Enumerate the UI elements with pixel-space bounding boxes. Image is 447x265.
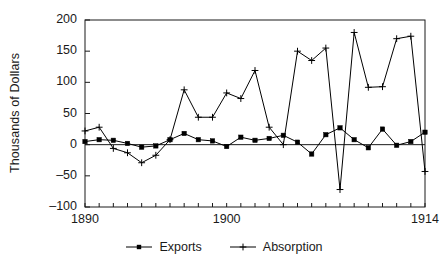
- data-point-marker: [125, 141, 129, 145]
- series-absorption: [82, 29, 429, 193]
- data-point-marker: [239, 135, 243, 139]
- data-point-marker: [324, 132, 328, 136]
- legend-label: Absorption: [263, 240, 323, 254]
- series-line: [85, 32, 425, 189]
- data-point-marker: [267, 136, 271, 140]
- y-axis-tick-label: –100: [31, 199, 77, 213]
- data-point-marker: [309, 152, 313, 156]
- data-point-marker: [352, 137, 356, 141]
- x-axis-tick-label: 1890: [55, 212, 115, 226]
- legend-key-square-icon: [124, 241, 154, 253]
- y-axis-tick-label: 50: [31, 106, 77, 120]
- y-axis-tick-label: 150: [31, 43, 77, 57]
- data-point-marker: [210, 139, 214, 143]
- data-point-marker: [253, 138, 257, 142]
- y-axis-tick-label: 200: [31, 12, 77, 26]
- y-axis-tick-label: 100: [31, 74, 77, 88]
- chart-container: Thousands of Dollars 200150100500–50–100…: [0, 0, 447, 265]
- data-point-marker: [394, 143, 398, 147]
- data-point-marker: [366, 146, 370, 150]
- chart-legend: ExportsAbsorption: [0, 240, 447, 254]
- data-point-marker: [295, 140, 299, 144]
- data-point-marker: [154, 144, 158, 148]
- legend-label: Exports: [159, 240, 201, 254]
- data-point-marker: [139, 145, 143, 149]
- plot-frame: [85, 20, 425, 207]
- data-point-marker: [409, 139, 413, 143]
- data-point-marker: [196, 137, 200, 141]
- y-axis-tick-label: 0: [31, 137, 77, 151]
- data-point-marker: [224, 144, 228, 148]
- data-point-marker: [380, 127, 384, 131]
- data-point-marker: [182, 131, 186, 135]
- x-axis-tick-label: 1900: [197, 212, 257, 226]
- data-point-marker: [338, 126, 342, 130]
- data-point-marker: [83, 139, 87, 143]
- data-point-marker: [97, 137, 101, 141]
- legend-key-plus-icon: [228, 241, 258, 253]
- data-point-marker: [111, 138, 115, 142]
- y-axis-tick-label: –50: [31, 168, 77, 182]
- x-axis-tick-label: 1914: [395, 212, 447, 226]
- y-axis-title-text: Thousands of Dollars: [8, 53, 22, 173]
- legend-entry-absorption: Absorption: [228, 240, 323, 254]
- y-axis-title: Thousands of Dollars: [2, 18, 28, 208]
- data-point-marker: [423, 130, 427, 134]
- legend-entry-exports: Exports: [124, 240, 201, 254]
- series-exports: [83, 126, 427, 157]
